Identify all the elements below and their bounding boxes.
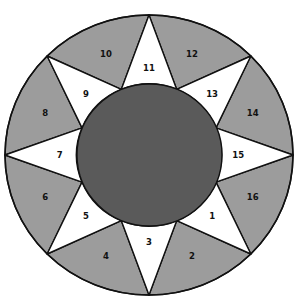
segment-label: 16 [247, 192, 259, 202]
segment-label: 12 [186, 49, 198, 59]
segment-label: 5 [83, 211, 89, 221]
segment-label: 3 [146, 237, 152, 247]
segment-label: 11 [143, 63, 155, 73]
center-circle [77, 84, 222, 226]
segment-label: 14 [247, 108, 259, 118]
segment-label: 13 [206, 89, 218, 99]
segment-label: 6 [42, 192, 48, 202]
segment-label: 2 [189, 251, 195, 261]
segment-label: 7 [57, 150, 63, 160]
star-segment-diagram: 12141624681011131513579 [0, 0, 295, 301]
segment-label: 10 [100, 49, 112, 59]
segment-label: 8 [42, 108, 48, 118]
segment-label: 15 [232, 150, 244, 160]
segment-label: 1 [209, 211, 215, 221]
segment-label: 9 [83, 89, 89, 99]
segment-label: 4 [103, 251, 109, 261]
